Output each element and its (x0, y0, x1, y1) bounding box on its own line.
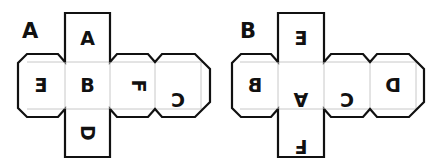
face-bottom-b: F (295, 136, 308, 158)
figure-label-a: A (22, 19, 39, 43)
face-top-b: E (295, 27, 308, 49)
figure-label-b: B (240, 19, 256, 43)
face-center-a: B (80, 74, 94, 96)
face-right1-a: F (128, 80, 150, 93)
face-top-a: A (80, 27, 95, 49)
cube-nets-diagram: A A E B F C D B E B A C (0, 0, 444, 167)
face-bottom-a: D (77, 125, 99, 141)
net-figure-b: B E B A C D F (232, 13, 424, 158)
face-right2-a: C (171, 89, 185, 111)
face-center-b: A (293, 89, 308, 111)
face-right2-b: D (385, 74, 401, 96)
face-left-a: E (35, 74, 48, 96)
net-figure-a: A A E B F C D (18, 13, 210, 157)
face-left-b: B (248, 74, 262, 96)
face-right1-b: C (340, 89, 354, 111)
